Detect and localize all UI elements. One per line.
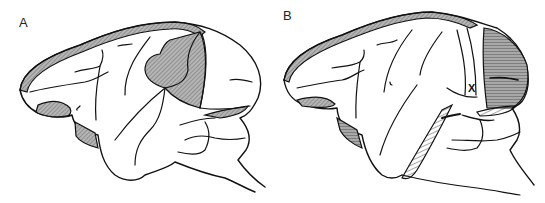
lesion-marker-x: X <box>468 82 475 94</box>
brain-diagram-a <box>0 0 272 203</box>
occipital-lesion <box>483 28 528 108</box>
orbital-shade <box>36 102 71 117</box>
panel-a: A <box>0 0 272 203</box>
inferior-temporal-hatch <box>402 105 452 179</box>
brain-diagram-b <box>272 0 545 203</box>
temporal-pole-shade <box>75 122 98 148</box>
temporal-pole-shade <box>337 118 362 148</box>
panel-b: B <box>272 0 545 203</box>
orbital-shade <box>297 97 335 107</box>
ventral-occipital-shade <box>477 106 516 116</box>
